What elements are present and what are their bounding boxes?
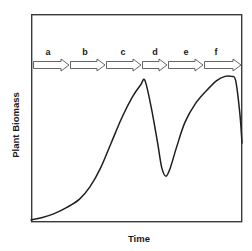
- biomass-curve: [31, 76, 242, 220]
- phase-arrow-a: a: [34, 47, 70, 71]
- x-axis-title: Time: [128, 233, 150, 244]
- phase-label-a: a: [45, 47, 51, 57]
- y-axis-title: Plant Biomass: [10, 92, 21, 157]
- phase-label-d: d: [152, 47, 158, 57]
- arrow-glyph: [71, 59, 106, 71]
- arrow-glyph: [205, 59, 242, 71]
- arrow-glyph: [143, 59, 168, 71]
- phase-label-b: b: [82, 47, 88, 57]
- phase-label-c: c: [120, 47, 125, 57]
- arrow-glyph: [107, 59, 142, 71]
- phase-label-f: f: [215, 47, 219, 57]
- arrow-glyph: [34, 59, 70, 71]
- phase-arrow-c: c: [107, 47, 142, 71]
- phase-label-e: e: [183, 47, 188, 57]
- phase-arrow-b: b: [71, 47, 106, 71]
- phase-arrow-f: f: [205, 47, 242, 71]
- phase-arrow-band: a b c d e f: [34, 47, 242, 71]
- figure-canvas: Plant Biomass Time a b c d: [0, 0, 252, 251]
- phase-arrow-d: d: [143, 47, 168, 71]
- phase-arrow-e: e: [169, 47, 204, 71]
- plant-biomass-figure: Plant Biomass Time a b c d: [0, 0, 252, 251]
- arrow-glyph: [169, 59, 204, 71]
- plot-frame: [32, 15, 242, 222]
